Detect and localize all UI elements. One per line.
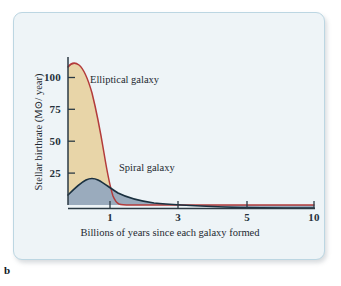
x-tick-label-1: 1 [97, 211, 123, 223]
figure-panel-letter: b [4, 264, 10, 276]
series-label-elliptical: Elliptical galaxy [90, 74, 159, 85]
x-axis-title: Billions of years since each galaxy form… [14, 227, 326, 238]
x-tick-label-3: 3 [165, 211, 191, 223]
y-axis-title: Stellar birthrate (M⊙/ year) [32, 57, 44, 207]
chart-plot-area: 100 75 50 25 1 3 5 10 Stellar birthrate … [14, 13, 326, 261]
x-tick-label-5: 5 [234, 211, 260, 223]
x-tick-label-10: 10 [301, 211, 327, 223]
series-label-spiral: Spiral galaxy [119, 162, 175, 173]
figure-panel: 100 75 50 25 1 3 5 10 Stellar birthrate … [13, 12, 325, 260]
